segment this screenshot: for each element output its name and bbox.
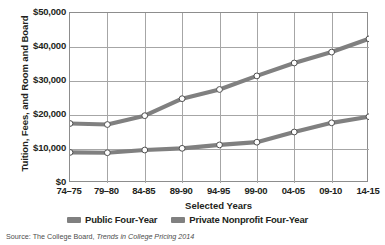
y-tick-label: $10,000 bbox=[18, 142, 66, 153]
legend-swatch-icon bbox=[67, 217, 81, 223]
legend-label: Public Four-Year bbox=[85, 214, 157, 225]
source-note: Source: The College Board, Trends in Col… bbox=[6, 232, 194, 241]
x-axis-title: Selected Years bbox=[69, 200, 368, 211]
source-prefix: Source: The College Board, bbox=[6, 232, 97, 241]
legend-label: Private Nonprofit Four-Year bbox=[189, 214, 308, 225]
y-tick-label: $50,000 bbox=[18, 6, 66, 17]
y-tick-label: $20,000 bbox=[18, 108, 66, 119]
legend-item: Public Four-Year bbox=[67, 214, 157, 225]
x-tick-label: 14-15 bbox=[345, 185, 385, 196]
y-tick-label: $40,000 bbox=[18, 40, 66, 51]
source-publication-title: Trends in College Pricing 2014 bbox=[97, 232, 195, 241]
y-axis-tick-labels: $0$10,000$20,000$30,000$40,000$50,000 bbox=[18, 0, 66, 190]
vertical-gridlines bbox=[108, 13, 333, 183]
legend-swatch-icon bbox=[171, 217, 185, 223]
legend-item: Private Nonprofit Four-Year bbox=[171, 214, 308, 225]
plot-svg bbox=[70, 13, 369, 183]
y-tick-label: $30,000 bbox=[18, 74, 66, 85]
x-axis-tick-labels: 74–7579–8084-8589-9094-9599-0004-0509-10… bbox=[69, 185, 368, 199]
plot-area bbox=[69, 12, 368, 182]
series-lines bbox=[70, 39, 369, 153]
horizontal-gridlines bbox=[70, 48, 369, 150]
chart-legend: Public Four-YearPrivate Nonprofit Four-Y… bbox=[0, 214, 375, 225]
